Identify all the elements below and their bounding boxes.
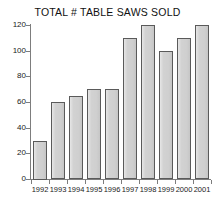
bar-2000 (177, 38, 191, 179)
y-axis-label-text: 0 (2, 175, 26, 183)
x-axis-label-2001: 2001 (190, 186, 214, 194)
y-axis-tick (26, 153, 31, 154)
bar-chart: TOTAL # TABLE SAWS SOLD 0204060801001201… (0, 0, 215, 198)
y-axis-label: 100 (0, 47, 26, 55)
x-axis-tick (157, 180, 158, 184)
bar-1996 (105, 89, 119, 179)
y-axis-label-text: 60 (2, 98, 26, 106)
y-axis-label-text: 120 (2, 21, 26, 29)
bar-1992 (33, 141, 47, 180)
y-axis-tick (26, 102, 31, 103)
y-axis-label-text: 80 (2, 72, 26, 80)
y-axis-label-text: 100 (2, 47, 26, 55)
y-axis-label: 20 (0, 149, 26, 157)
x-axis-tick (193, 180, 194, 184)
y-axis-label: 80 (0, 72, 26, 80)
bar-1993 (51, 102, 65, 179)
y-axis-tick (26, 25, 31, 26)
x-axis-tick (211, 180, 212, 184)
plot-area (31, 25, 211, 179)
x-axis-tick (121, 180, 122, 184)
y-axis-label-text: 20 (2, 149, 26, 157)
x-axis-tick (175, 180, 176, 184)
bar-2001 (195, 25, 209, 179)
x-axis-tick (103, 180, 104, 184)
bar-1999 (159, 51, 173, 179)
x-axis-tick (67, 180, 68, 184)
chart-title: TOTAL # TABLE SAWS SOLD (0, 6, 215, 18)
bar-1998 (141, 25, 155, 179)
bar-1994 (69, 96, 83, 179)
y-axis-label: 60 (0, 98, 26, 106)
bar-1995 (87, 89, 101, 179)
x-axis-tick (139, 180, 140, 184)
x-axis-tick (49, 180, 50, 184)
bar-1997 (123, 38, 137, 179)
y-axis-label: 0 (0, 175, 26, 183)
y-axis-tick (26, 128, 31, 129)
y-axis-label-text: 40 (2, 124, 26, 132)
y-axis-label: 120 (0, 21, 26, 29)
y-axis-tick (26, 76, 31, 77)
x-axis-tick (85, 180, 86, 184)
x-axis-tick (31, 180, 32, 184)
y-axis-tick (26, 51, 31, 52)
y-axis-label: 40 (0, 124, 26, 132)
